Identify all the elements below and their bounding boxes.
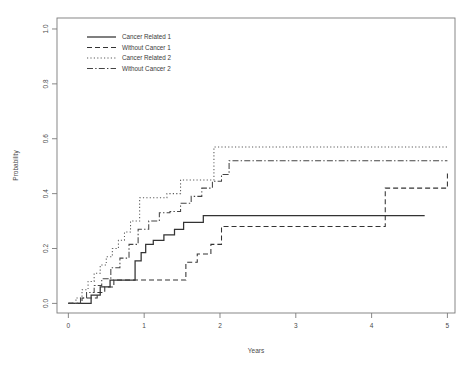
y-axis: 0.00.20.40.60.81.0 [42, 24, 57, 308]
x-tick-label: 4 [370, 322, 374, 329]
y-tick-label: 1.0 [42, 24, 49, 33]
y-tick-label: 0.0 [42, 298, 49, 307]
legend-label-2: Without Cancer 1 [122, 44, 171, 51]
legend-label-1: Cancer Related 1 [122, 33, 172, 40]
data-series-group [68, 147, 447, 303]
x-tick-label: 1 [142, 322, 146, 329]
series-line-4 [68, 161, 447, 304]
series-line-2 [68, 172, 447, 304]
x-axis-label: Years [248, 347, 265, 354]
plot-border [57, 18, 455, 313]
chart-legend: Cancer Related 1Without Cancer 1Cancer R… [87, 33, 172, 72]
y-tick-label: 0.6 [42, 134, 49, 143]
chart-canvas: 012345 0.00.20.40.60.81.0 Cancer Related… [0, 0, 476, 367]
x-tick-label: 2 [218, 322, 222, 329]
y-tick-label: 0.2 [42, 244, 49, 253]
x-tick-label: 5 [446, 322, 450, 329]
series-line-1 [68, 216, 424, 304]
x-axis: 012345 [67, 313, 450, 329]
y-axis-label: Probability [12, 150, 20, 181]
plot-frame [57, 18, 455, 313]
survival-probability-chart: 012345 0.00.20.40.60.81.0 Cancer Related… [0, 0, 476, 367]
y-tick-label: 0.8 [42, 79, 49, 88]
legend-label-3: Cancer Related 2 [122, 54, 172, 61]
x-tick-label: 0 [67, 322, 71, 329]
legend-label-4: Without Cancer 2 [122, 65, 171, 72]
y-tick-label: 0.4 [42, 189, 49, 198]
x-tick-label: 3 [294, 322, 298, 329]
